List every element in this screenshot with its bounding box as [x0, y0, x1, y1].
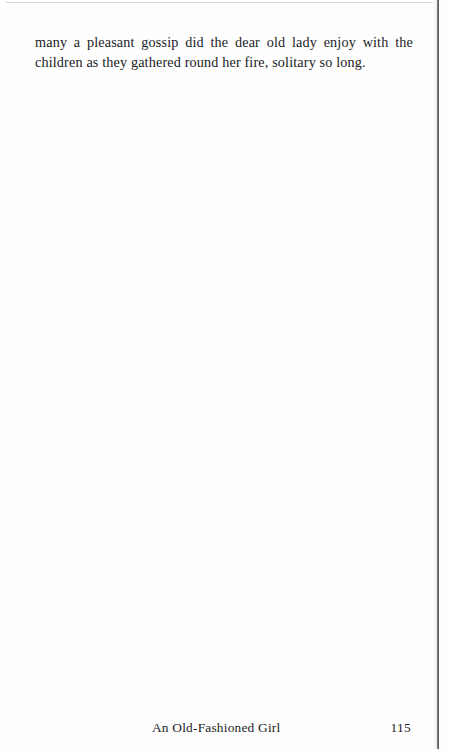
body-text-line-2: children as they gathered round her fire…	[35, 53, 413, 73]
body-word: gossip	[141, 33, 178, 53]
body-word: enjoy	[324, 33, 356, 53]
body-word: the	[210, 33, 228, 53]
body-word: pleasant	[87, 33, 135, 53]
body-word: dear	[235, 33, 260, 53]
body-word: a	[74, 33, 80, 53]
blank-page-area	[30, 80, 419, 689]
page-number: 115	[391, 720, 412, 736]
body-text-line-1: many a pleasant gossip did the dear old …	[35, 33, 413, 53]
scan-right-edge-line	[437, 0, 439, 749]
page-footer: An Old-Fashioned Girl 115	[0, 715, 449, 741]
body-text-block: many a pleasant gossip did the dear old …	[35, 33, 413, 72]
body-word: with	[363, 33, 389, 53]
running-title: An Old-Fashioned Girl	[152, 720, 280, 736]
body-word: old	[267, 33, 286, 53]
body-word: lady	[292, 33, 317, 53]
body-word: the	[395, 33, 413, 53]
body-word: did	[185, 33, 204, 53]
book-page: many a pleasant gossip did the dear old …	[0, 0, 449, 749]
scan-top-edge-line	[6, 2, 437, 3]
body-word: many	[35, 33, 67, 53]
